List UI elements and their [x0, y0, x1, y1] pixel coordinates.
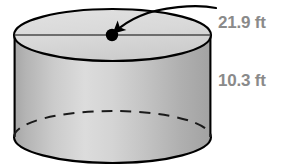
height-label: 10.3 ft — [218, 71, 266, 90]
cylinder-figure: 21.9 ft 10.3 ft — [0, 0, 281, 164]
diameter-label: 21.9 ft — [218, 13, 266, 32]
center-point-dot — [106, 29, 118, 41]
